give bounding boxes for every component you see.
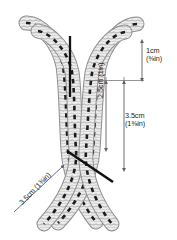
label-1cm-imperial: (⅜in) [146,55,162,63]
label-2-5cm: 2.5cm (1in) [97,63,105,98]
label-3-5cm: 3.5cm (1⅜in) [125,112,145,129]
label-1cm: 1cm (⅜in) [146,47,162,64]
cord-strand-group [26,23,137,224]
label-3-5cm-imperial: (1⅜in) [125,120,145,128]
figure-canvas: 1cm (⅜in) 3.5cm (1⅜in) 2.5cm (1in) 3.5cm… [0,0,177,240]
